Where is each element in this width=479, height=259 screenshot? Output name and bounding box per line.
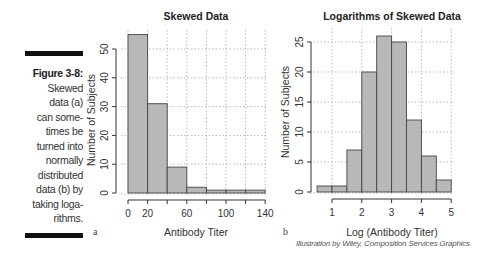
histogram-bar: [377, 36, 392, 192]
y-tick-label: 5: [294, 159, 305, 165]
y-axis-label: Number of Subjects: [279, 66, 291, 158]
histogram-bar: [317, 186, 332, 192]
histogram-bar: [421, 156, 436, 192]
x-tick-label: 4: [419, 207, 425, 218]
y-axis: 0510152025: [294, 36, 311, 195]
x-axis-label: Log (Antibody Titer): [346, 226, 438, 238]
x-axis: 12345: [329, 199, 454, 218]
histogram-bar: [407, 120, 422, 192]
x-tick-label: 2: [359, 207, 365, 218]
y-tick-label: 20: [294, 66, 305, 78]
log-skewed-data-histogram: 051015202512345Logarithms of Skewed Data…: [0, 0, 479, 259]
y-tick-label: 10: [294, 126, 305, 138]
histogram-bar: [362, 72, 377, 192]
y-tick-label: 15: [294, 96, 305, 108]
x-tick-label: 1: [329, 207, 335, 218]
illustration-credit: Illustration by Wiley, Composition Servi…: [296, 239, 470, 248]
y-tick-label: 25: [294, 36, 305, 48]
y-tick-label: 0: [294, 189, 305, 195]
histogram-bar: [347, 150, 362, 192]
x-tick-label: 5: [448, 207, 454, 218]
x-tick-label: 3: [389, 207, 395, 218]
chart-title: Logarithms of Skewed Data: [323, 10, 461, 22]
bars: [317, 36, 451, 192]
histogram-bar: [332, 186, 347, 192]
histogram-bar: [436, 180, 451, 192]
histogram-bar: [392, 42, 407, 192]
